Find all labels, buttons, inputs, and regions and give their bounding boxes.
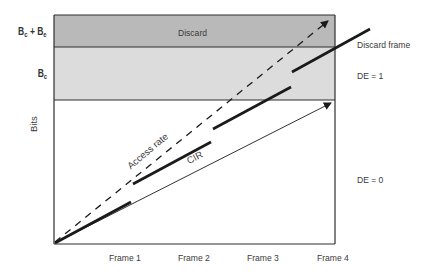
x-tick-frame-2: Frame 2 — [178, 252, 210, 263]
de1-label: DE = 1 — [357, 70, 383, 81]
discard-frame-label: Discard frame — [357, 39, 410, 50]
bc-label: Bc — [38, 68, 47, 80]
x-tick-frame-4: Frame 4 — [317, 252, 349, 263]
y-axis-label: Bits — [28, 116, 39, 132]
bc-be-label: Bc + Be — [18, 26, 47, 38]
discard-band-label: Discard — [178, 27, 207, 38]
x-tick-frame-1: Frame 1 — [109, 252, 141, 263]
de0-label: DE = 0 — [357, 174, 383, 185]
de1-band — [54, 47, 335, 100]
frame-segment-1 — [55, 202, 131, 243]
x-tick-frame-3: Frame 3 — [247, 252, 279, 263]
